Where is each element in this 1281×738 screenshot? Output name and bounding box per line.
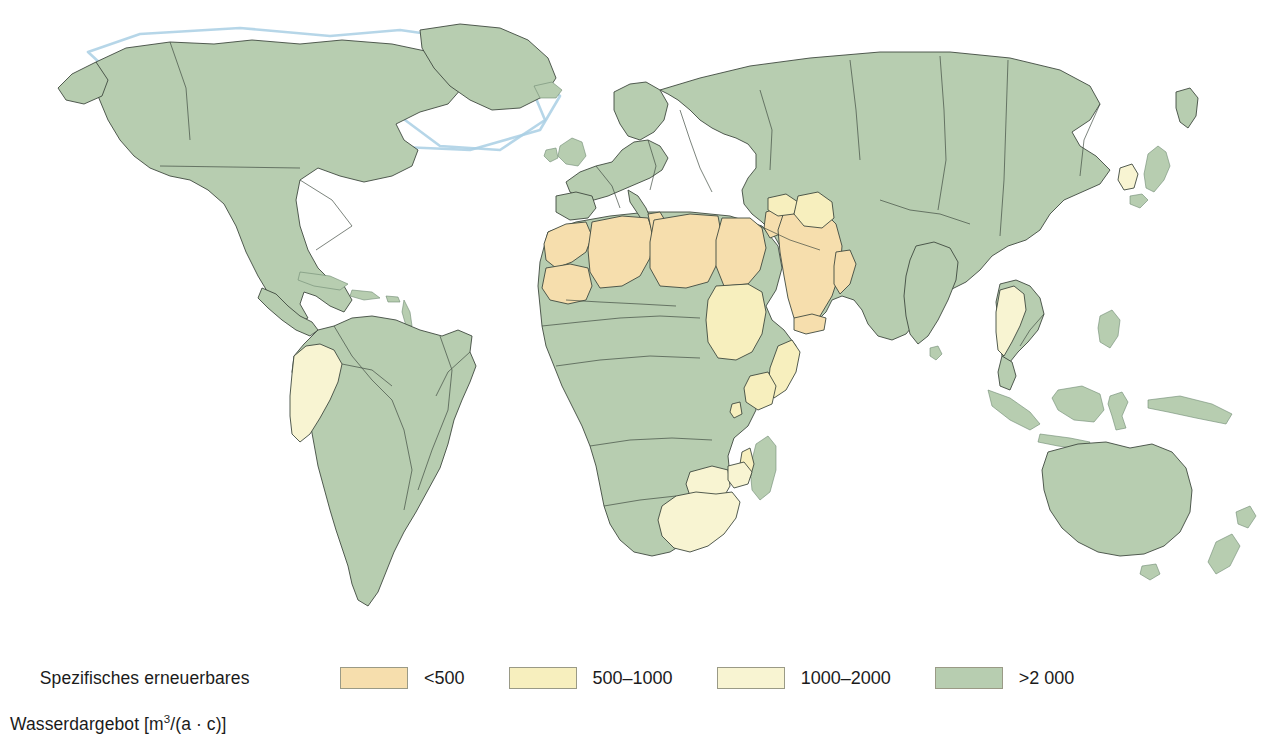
legend-item-gt2000[interactable]: >2 000: [935, 667, 1075, 689]
region-iberia: [556, 192, 596, 220]
region-india: [904, 242, 958, 344]
region-sumatra: [988, 390, 1040, 430]
region-scandinavia: [614, 82, 668, 140]
legend-label-lt500: <500: [424, 668, 465, 689]
region-tasmania: [1140, 564, 1160, 580]
region-north-america: [96, 40, 462, 324]
legend-keys: <500 500–1000 1000–2000 >2 000: [340, 630, 1074, 726]
legend-swatch-500-1000: [509, 667, 577, 689]
map-area: [0, 0, 1281, 630]
region-south-korea: [1118, 164, 1138, 190]
legend-item-500-1000[interactable]: 500–1000: [509, 667, 673, 689]
legend-caption: Spezifisches erneuerbares Wasserdargebot…: [10, 644, 249, 738]
legend-label-gt2000: >2 000: [1019, 668, 1075, 689]
region-philippines: [1098, 310, 1120, 348]
legend-swatch-gt2000: [935, 667, 1003, 689]
region-madagascar: [750, 436, 776, 500]
region-sri-lanka: [930, 346, 942, 360]
region-kenya: [744, 372, 776, 410]
legend-item-1000-2000[interactable]: 1000–2000: [717, 667, 891, 689]
region-sulawesi: [1108, 392, 1128, 430]
region-new-zealand-south: [1208, 534, 1240, 574]
legend-swatch-lt500: [340, 667, 408, 689]
region-british-isles: [558, 138, 586, 166]
legend-swatch-1000-2000: [717, 667, 785, 689]
legend-caption-line2-pre: Wasserdargebot [m: [10, 714, 164, 734]
region-malay-peninsula: [998, 356, 1016, 390]
region-group-gt2000: [58, 24, 1256, 606]
region-hispaniola: [350, 290, 380, 300]
region-lesser-antilles: [402, 300, 412, 326]
region-puerto-rico: [386, 296, 400, 302]
region-japan: [1144, 146, 1170, 192]
region-new-zealand-north: [1236, 506, 1256, 528]
region-kamchatka: [1176, 88, 1198, 128]
region-ireland: [544, 148, 558, 162]
legend-label-1000-2000: 1000–2000: [801, 668, 891, 689]
region-new-guinea: [1148, 396, 1232, 424]
world-map-svg: [0, 0, 1281, 630]
legend-caption-line1: Spezifisches erneuerbares: [40, 668, 250, 688]
legend-caption-line2-post: /(a · c)]: [170, 714, 226, 734]
legend-item-lt500[interactable]: <500: [340, 667, 465, 689]
region-south-africa: [658, 492, 740, 552]
region-japan-south: [1130, 194, 1148, 208]
region-mauritania: [542, 264, 592, 304]
legend-caption-line2: Wasserdargebot [m3/(a · c)]: [10, 713, 249, 736]
legend: Spezifisches erneuerbares Wasserdargebot…: [0, 630, 1281, 726]
region-yemen: [794, 314, 826, 334]
region-borneo: [1052, 386, 1104, 422]
region-australia: [1042, 442, 1192, 556]
legend-label-500-1000: 500–1000: [593, 668, 673, 689]
